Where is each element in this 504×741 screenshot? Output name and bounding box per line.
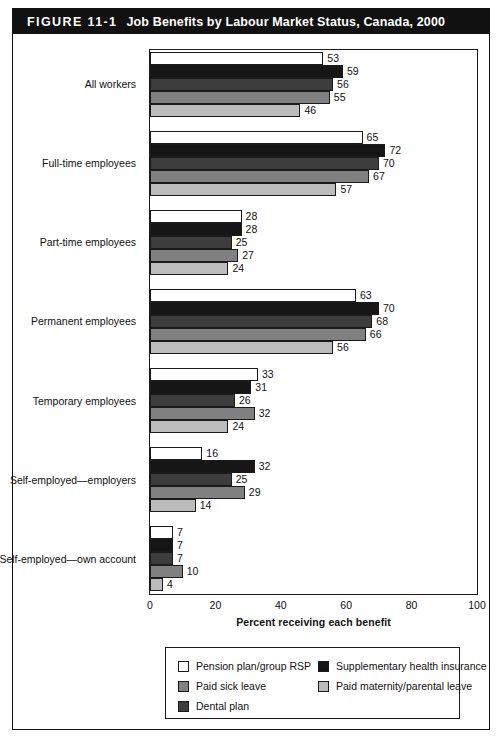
bar-group: 777104	[150, 526, 477, 591]
figure-title-bar: FIGURE 11-1 Job Benefits by Labour Marke…	[13, 9, 489, 34]
category-label-slot: Part-time employees	[13, 210, 145, 275]
category-label-slot: Self-employed—employers	[13, 448, 145, 513]
bar	[150, 236, 232, 249]
legend-label: Dental plan	[196, 700, 249, 712]
bar	[150, 131, 363, 144]
bar	[150, 447, 202, 460]
category-label: All workers	[85, 78, 136, 90]
bar-value-label: 33	[262, 369, 274, 380]
bar-value-label: 72	[389, 145, 401, 156]
bar-row: 14	[150, 499, 477, 512]
bar-value-label: 59	[347, 66, 359, 77]
bar-value-label: 16	[206, 448, 218, 459]
figure-title: Job Benefits by Labour Market Status, Ca…	[126, 15, 445, 29]
bar-row: 28	[150, 210, 477, 223]
bar-value-label: 4	[167, 579, 173, 590]
legend-entry: Supplementary health insurance	[318, 657, 487, 675]
bar	[150, 368, 258, 381]
bar	[150, 91, 330, 104]
legend: Pension plan/group RSPPaid sick leaveDen…	[165, 647, 460, 719]
bar-value-label: 53	[327, 53, 339, 64]
bar-value-label: 56	[337, 342, 349, 353]
bar	[150, 420, 228, 433]
bar-value-label: 67	[373, 171, 385, 182]
bar-value-label: 28	[246, 224, 258, 235]
category-label: Full-time employees	[42, 157, 136, 169]
bar-value-label: 57	[340, 184, 352, 195]
plot-area: 5359565546657270675728282527246370686656…	[149, 49, 478, 595]
legend-swatch-icon	[178, 701, 189, 712]
bar-row: 66	[150, 328, 477, 341]
bar	[150, 104, 300, 117]
x-axis-tick: 40	[275, 599, 287, 611]
bar-value-label: 7	[177, 553, 183, 564]
bar	[150, 328, 366, 341]
bar-group: 2828252724	[150, 210, 477, 275]
bar-row: 55	[150, 91, 477, 104]
bar	[150, 144, 385, 157]
bar-row: 25	[150, 473, 477, 486]
bar-row: 31	[150, 381, 477, 394]
figure-frame: FIGURE 11-1 Job Benefits by Labour Marke…	[12, 8, 490, 730]
bar-row: 7	[150, 526, 477, 539]
bar-row: 59	[150, 65, 477, 78]
bar	[150, 407, 255, 420]
bar-row: 56	[150, 78, 477, 91]
bar-row: 63	[150, 289, 477, 302]
bar-row: 70	[150, 157, 477, 170]
bar-group-stack: 5359565546657270675728282527246370686656…	[150, 50, 477, 594]
legend-label: Paid sick leave	[196, 680, 266, 692]
bar-row: 68	[150, 315, 477, 328]
bar-row: 70	[150, 302, 477, 315]
legend-swatch-icon	[318, 681, 329, 692]
legend-swatch-icon	[178, 661, 189, 672]
bar	[150, 552, 173, 565]
bar-value-label: 14	[200, 500, 212, 511]
legend-label: Pension plan/group RSP	[196, 660, 311, 672]
bar	[150, 526, 173, 539]
bar-value-label: 7	[177, 527, 183, 538]
bar-value-label: 46	[304, 105, 316, 116]
bar-value-label: 27	[242, 250, 254, 261]
category-label-slot: All workers	[13, 51, 145, 116]
category-label: Permanent employees	[31, 315, 136, 327]
bar-value-label: 10	[187, 566, 199, 577]
bar-row: 24	[150, 262, 477, 275]
x-axis-ticks: 020406080100	[149, 595, 478, 617]
bar-row: 56	[150, 341, 477, 354]
bar	[150, 565, 183, 578]
x-axis-tick: 80	[406, 599, 418, 611]
bar-row: 28	[150, 223, 477, 236]
x-axis-tick: 20	[210, 599, 222, 611]
legend-entry: Dental plan	[178, 697, 311, 715]
category-label-slot: Full-time employees	[13, 130, 145, 195]
bar-row: 57	[150, 183, 477, 196]
bar-value-label: 25	[236, 474, 248, 485]
bar	[150, 210, 242, 223]
bar-row: 29	[150, 486, 477, 499]
bar-row: 53	[150, 52, 477, 65]
bar-value-label: 68	[376, 316, 388, 327]
bar-value-label: 32	[259, 408, 271, 419]
x-axis-tick: 100	[468, 599, 486, 611]
bar-row: 27	[150, 249, 477, 262]
bar	[150, 460, 255, 473]
bar-value-label: 32	[259, 461, 271, 472]
legend-swatch-icon	[178, 681, 189, 692]
bar	[150, 539, 173, 552]
bar-row: 25	[150, 236, 477, 249]
legend-column-left: Pension plan/group RSPPaid sick leaveDen…	[178, 657, 311, 717]
legend-entry: Paid sick leave	[178, 677, 311, 695]
legend-swatch-icon	[318, 661, 329, 672]
x-axis-tick: 0	[147, 599, 153, 611]
bar-row: 26	[150, 394, 477, 407]
bar-row: 24	[150, 420, 477, 433]
bar-group: 3331263224	[150, 368, 477, 433]
bar-value-label: 70	[383, 303, 395, 314]
bar-value-label: 7	[177, 540, 183, 551]
bar-value-label: 56	[337, 79, 349, 90]
bar-value-label: 28	[246, 211, 258, 222]
bar	[150, 249, 238, 262]
category-label: Self-employed—employers	[10, 474, 136, 486]
bar	[150, 262, 228, 275]
